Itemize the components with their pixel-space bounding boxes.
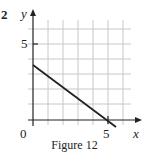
y-axis-arrow-icon bbox=[30, 9, 36, 16]
figure-caption: Figure 12 bbox=[0, 138, 149, 153]
y-tick-label-5: 5 bbox=[21, 36, 28, 52]
x-axis-arrow-icon bbox=[135, 117, 142, 123]
